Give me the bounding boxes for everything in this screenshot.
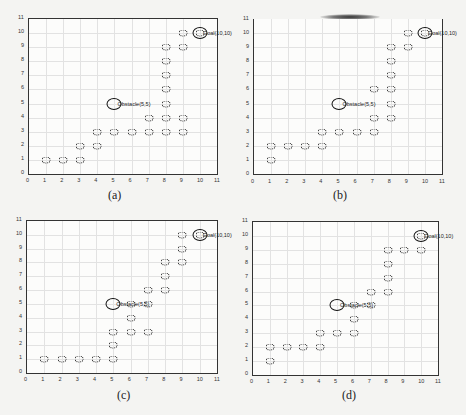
goal-label: Goal(10,10) [203,30,232,36]
x-tick-label: 5 [334,378,337,384]
gridline-horizontal [27,249,217,250]
path-point [282,344,291,351]
y-tick-label: 6 [21,84,24,90]
y-tick-label: 10 [18,28,24,34]
path-point [178,259,187,266]
gridline-vertical [79,221,80,373]
path-point [366,288,375,295]
x-tick-label: 5 [110,376,113,382]
gridline-horizontal [29,89,217,90]
gridline-horizontal [29,160,217,161]
gridline-vertical [371,222,372,375]
x-tick-label: 3 [77,177,80,183]
y-tick-label: 1 [19,354,22,360]
path-point [178,44,187,51]
gridline-horizontal [254,132,442,133]
y-tick-label: 9 [19,244,22,250]
goal-label: Goal(10,10) [428,30,457,36]
path-point [143,287,152,294]
x-tick-label: 9 [179,376,182,382]
path-point [76,142,85,149]
gridline-vertical [183,19,184,174]
gridline-vertical [374,19,375,174]
y-tick-label: 10 [243,29,249,35]
gridline-horizontal [253,250,438,251]
x-tick-label: 3 [76,376,79,382]
gridline-vertical [44,221,45,373]
path-point [161,44,170,51]
x-tick-label: 4 [317,378,320,384]
gridline-vertical [339,19,340,174]
subplot-caption: (c) [117,388,130,403]
x-tick-label: 5 [336,178,339,184]
path-point [144,128,153,135]
x-tick-label: 2 [284,378,287,384]
gridline-vertical [288,19,289,174]
path-point [417,246,426,253]
y-tick-label: 4 [245,314,248,320]
path-point [109,328,118,335]
x-tick-label: 2 [60,177,63,183]
gridline-horizontal [253,292,438,293]
gridline-horizontal [254,47,442,48]
path-point [267,156,276,163]
y-tick-label: 5 [21,99,24,105]
y-tick-label: 9 [21,42,24,48]
path-point [318,128,327,135]
y-tick-label: 4 [19,313,22,319]
gridline-horizontal [254,33,442,34]
path-point [386,86,395,93]
y-tick-label: 10 [16,230,22,236]
subplot-caption: (d) [342,388,356,403]
x-tick-label: 0 [250,378,253,384]
x-tick-label: 1 [43,177,46,183]
y-tick-label: 9 [245,245,248,251]
gridline-vertical [63,19,64,174]
x-tick-label: 6 [354,178,357,184]
x-tick-label: 2 [59,376,62,382]
path-point [110,128,119,135]
path-point [109,356,118,363]
y-tick-label: 1 [245,356,248,362]
gridline-vertical [354,222,355,375]
path-point [42,156,51,163]
gridline-vertical [148,221,149,373]
y-tick-label: 0 [19,368,22,374]
y-tick-label: 6 [246,85,249,91]
path-point [369,114,378,121]
y-tick-label: 5 [19,299,22,305]
x-tick-label: 0 [24,376,27,382]
gridline-horizontal [254,146,442,147]
gridline-horizontal [253,264,438,265]
gridline-horizontal [29,132,217,133]
gridline-vertical [166,19,167,174]
path-point [383,288,392,295]
path-point [386,58,395,65]
path-point [178,128,187,135]
y-tick-label: 6 [19,285,22,291]
path-point [126,328,135,335]
y-tick-label: 3 [245,328,248,334]
y-tick-label: 0 [21,169,24,175]
gridline-vertical [62,221,63,373]
path-point [267,142,276,149]
y-tick-label: 8 [21,56,24,62]
y-tick-label: 8 [245,259,248,265]
gridline-vertical [46,19,47,174]
path-point [144,114,153,121]
x-tick-label: 4 [319,178,322,184]
path-point [178,30,187,37]
y-tick-label: 7 [245,273,248,279]
path-point [57,356,66,363]
x-tick-label: 7 [368,378,371,384]
x-tick-label: 1 [267,378,270,384]
gridline-vertical [97,19,98,174]
gridline-vertical [320,222,321,375]
path-point [161,259,170,266]
gridline-horizontal [29,47,217,48]
gridline-horizontal [253,347,438,348]
path-point [349,330,358,337]
gridline-horizontal [29,75,217,76]
y-tick-label: 1 [21,155,24,161]
x-tick-label: 8 [388,178,391,184]
